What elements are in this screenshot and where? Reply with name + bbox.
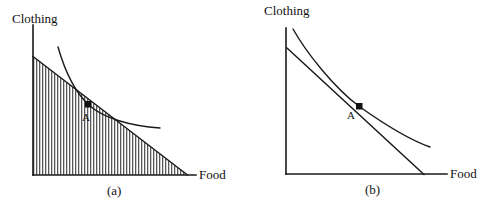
x-axis-label-panel-a: Food xyxy=(199,168,226,181)
point-label-a-panel-b: A xyxy=(347,110,355,121)
point-marker-b xyxy=(356,103,363,110)
indifference-curve-b xyxy=(293,29,430,147)
y-axis-label-panel-b: Clothing xyxy=(264,4,310,17)
panel-caption-a: (a) xyxy=(107,184,121,197)
y-axis-label-panel-a: Clothing xyxy=(12,12,58,25)
panel-b xyxy=(286,28,447,175)
x-axis-label-panel-b: Food xyxy=(450,167,477,180)
figure-canvas xyxy=(0,0,490,217)
budget-line-b xyxy=(287,48,424,175)
panel-a xyxy=(33,25,196,175)
panel-caption-b: (b) xyxy=(365,183,380,196)
point-label-a-panel-a: A xyxy=(82,112,90,123)
point-marker-a xyxy=(85,101,92,108)
